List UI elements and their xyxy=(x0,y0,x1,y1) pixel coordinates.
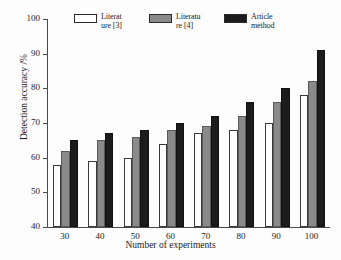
chart-figure: Literat ure [3] Literatu re [4] Article … xyxy=(0,0,341,260)
bar xyxy=(97,140,105,227)
bar xyxy=(53,165,61,227)
bar xyxy=(229,130,237,227)
bar xyxy=(88,161,96,227)
x-axis-title: Number of experiments xyxy=(0,240,341,250)
bar xyxy=(317,50,325,227)
bar xyxy=(308,81,316,227)
bar xyxy=(167,130,175,227)
y-axis-tick: 90 xyxy=(43,54,47,55)
bar-group xyxy=(119,19,154,227)
bar xyxy=(140,130,148,227)
y-axis-tick: 80 xyxy=(43,88,47,89)
bar xyxy=(281,88,289,227)
bar xyxy=(202,126,210,227)
bar-group xyxy=(189,19,224,227)
bar xyxy=(211,116,219,227)
bar-group xyxy=(154,19,189,227)
bar xyxy=(238,116,246,227)
plot-area: 405060708090100 30405060708090100 xyxy=(47,19,330,228)
y-axis-tick-label: 100 xyxy=(27,13,41,24)
bar xyxy=(246,102,254,227)
bar-group xyxy=(224,19,259,227)
bar-group xyxy=(48,19,83,227)
y-axis-tick-label: 70 xyxy=(31,117,40,128)
y-axis-tick: 60 xyxy=(43,158,47,159)
bar xyxy=(132,137,140,227)
y-axis-tick-label: 40 xyxy=(31,221,40,232)
bar xyxy=(273,102,281,227)
bar xyxy=(265,123,273,227)
y-axis-tick: 40 xyxy=(43,227,47,228)
bar xyxy=(194,133,202,227)
bar xyxy=(105,133,113,227)
y-axis-title: Detection accuracy /% xyxy=(19,27,29,167)
bar xyxy=(124,158,132,227)
x-axis-line xyxy=(47,227,330,228)
bar-group xyxy=(295,19,330,227)
y-axis-tick-label: 50 xyxy=(31,186,40,197)
bar-series-container xyxy=(48,19,330,227)
bar xyxy=(300,95,308,227)
bar-group xyxy=(83,19,118,227)
y-axis-tick: 100 xyxy=(43,19,47,20)
bar xyxy=(176,123,184,227)
bar-group xyxy=(260,19,295,227)
y-axis-tick-label: 60 xyxy=(31,152,40,163)
y-axis-tick: 50 xyxy=(43,192,47,193)
bar xyxy=(70,140,78,227)
y-axis-tick-label: 90 xyxy=(31,48,40,59)
y-axis-tick: 70 xyxy=(43,123,47,124)
y-axis-tick-label: 80 xyxy=(31,82,40,93)
bar xyxy=(61,151,69,227)
bar xyxy=(159,144,167,227)
